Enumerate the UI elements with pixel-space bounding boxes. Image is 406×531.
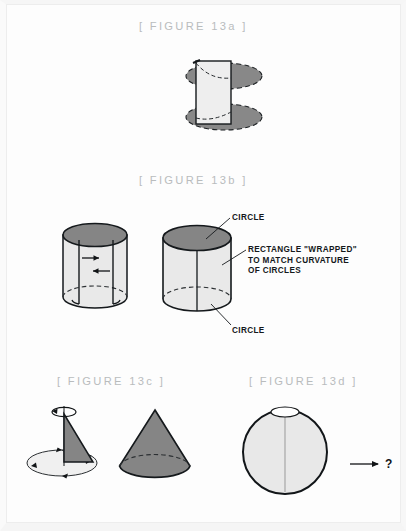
figure-title-13d: [ FIGURE 13d ] [249, 375, 358, 387]
callout-top-circle: CIRCLE [232, 213, 265, 224]
figure-13c-cone [120, 410, 191, 477]
figure-13a-graphic [186, 60, 262, 130]
cone-body-13c [120, 410, 191, 477]
callout-wrapped-rectangle: RECTANGLE "WRAPPED" TO MATCH CURVATURE O… [248, 245, 357, 277]
figure-title-13a: [ FIGURE 13a ] [139, 20, 248, 32]
cylinder-top-right [163, 226, 231, 251]
figure-page: [ FIGURE 13a ] [ FIGURE 13b ] [ FIGURE 1… [0, 0, 406, 531]
triangle-13c [64, 414, 93, 462]
cylinder-top-left [63, 224, 127, 247]
callout-bottom-circle: CIRCLE [232, 326, 265, 337]
result-arrow-13d [350, 461, 379, 467]
figure-13b-left-cylinder [63, 224, 127, 309]
question-mark-label: ? [385, 457, 392, 471]
figure-title-13c: [ FIGURE 13c ] [57, 375, 165, 387]
rectangle-13a [196, 61, 231, 124]
figure-13d-rotating-circle [243, 407, 379, 494]
figure-13c-triangle-sweep [27, 406, 97, 478]
figure-13b-right-cylinder [163, 218, 246, 325]
figure-title-13b: [ FIGURE 13b ] [139, 174, 248, 186]
spin-ellipse-13d [271, 407, 299, 417]
